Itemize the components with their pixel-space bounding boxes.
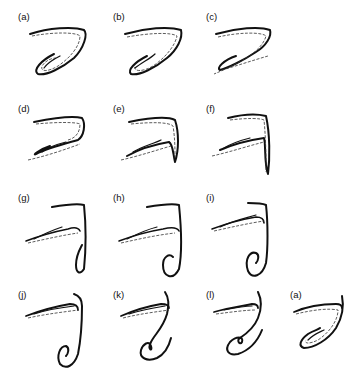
attractor-shape (18, 193, 108, 285)
panel-b: (b) (113, 12, 203, 104)
panel-e: (e) (113, 104, 203, 196)
attractor-shape (206, 193, 296, 285)
attractor-shape (113, 12, 203, 92)
attractor-shape (113, 193, 203, 285)
attractor-shape (206, 12, 296, 92)
panel-k: (k) (113, 290, 203, 382)
panel-a-repeat: (a) (290, 290, 361, 382)
attractor-shape (290, 290, 360, 382)
panel-l: (l) (206, 290, 296, 382)
attractor-shape (18, 290, 108, 382)
panel-c: (c) (206, 12, 296, 104)
attractor-shape (113, 290, 203, 382)
panel-g: (g) (18, 193, 108, 285)
panel-h: (h) (113, 193, 203, 285)
panel-j: (j) (18, 290, 108, 382)
panel-f: (f) (206, 104, 296, 196)
attractor-shape (18, 12, 108, 92)
panel-a: (a) (18, 12, 108, 104)
attractor-shape (206, 104, 296, 184)
attractor-shape (113, 104, 203, 184)
attractor-shape (206, 290, 296, 382)
panel-d: (d) (18, 104, 108, 196)
attractor-shape (18, 104, 108, 184)
panel-i: (i) (206, 193, 296, 285)
